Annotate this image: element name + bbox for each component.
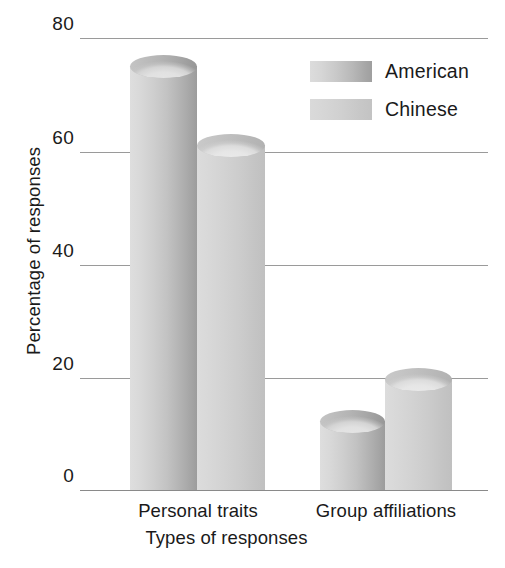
legend-swatch-chinese-icon: [310, 99, 372, 120]
bar-american-personal-traits[interactable]: [130, 55, 197, 490]
bar-cap: [130, 55, 197, 78]
ytick-80: 80: [18, 14, 74, 34]
legend-item-american[interactable]: American: [310, 58, 469, 84]
legend-swatch-american-icon: [310, 61, 372, 82]
axis-baseline: [80, 490, 488, 491]
ytick-0: 0: [18, 466, 74, 486]
bar-chinese-personal-traits[interactable]: [197, 134, 265, 490]
xtick-label-group-affiliations: Group affiliations: [296, 500, 476, 522]
bar-cap-inner: [320, 410, 385, 433]
y-axis-title: Percentage of responses: [23, 131, 45, 371]
ytick-label-0: 0: [28, 466, 74, 485]
legend-label-american: American: [385, 60, 469, 83]
bar-body: [130, 66, 197, 490]
bar-chinese-group-affiliations[interactable]: [385, 368, 452, 490]
bar-cap-inner: [197, 134, 265, 157]
bar-cap-inner: [385, 368, 452, 391]
gridline-80: [80, 38, 488, 39]
bar-american-group-affiliations[interactable]: [320, 410, 385, 490]
bar-cap: [385, 368, 452, 391]
plot-area: 80 60 40 20 0: [0, 0, 505, 500]
xtick-label-personal-traits: Personal traits: [118, 500, 278, 522]
ytick-label-80: 80: [28, 14, 74, 33]
bar-chart: 80 60 40 20 0: [0, 0, 505, 568]
bar-cap-inner: [130, 55, 197, 78]
bar-body: [385, 379, 452, 490]
bar-cap: [320, 410, 385, 433]
x-axis-title: Types of responses: [0, 527, 505, 549]
bar-body: [197, 145, 265, 490]
legend-label-chinese: Chinese: [385, 98, 458, 121]
bar-cap: [197, 134, 265, 157]
legend-item-chinese[interactable]: Chinese: [310, 96, 458, 122]
